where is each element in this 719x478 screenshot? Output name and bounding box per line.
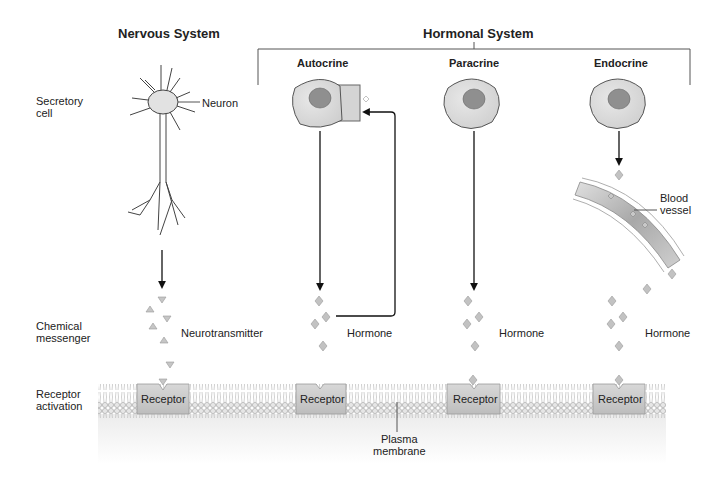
paracrine-cell bbox=[444, 79, 500, 129]
row-label-line: activation bbox=[36, 400, 82, 412]
nucleus-icon bbox=[608, 89, 630, 109]
header-endocrine: Endocrine bbox=[594, 57, 648, 69]
receptor-label: Receptor bbox=[598, 393, 643, 405]
row-label-line: cell bbox=[36, 107, 83, 119]
row-label-secretory-cell: Secretory cell bbox=[36, 95, 83, 119]
label-line: vessel bbox=[660, 204, 691, 216]
label-hormone-autocrine: Hormone bbox=[347, 327, 392, 339]
row-label-line: Chemical bbox=[36, 320, 90, 332]
label-plasma-membrane: Plasma membrane bbox=[373, 433, 426, 457]
label-line: Plasma bbox=[373, 433, 426, 445]
label-hormone-endocrine: Hormone bbox=[645, 327, 690, 339]
header-autocrine: Autocrine bbox=[297, 57, 348, 69]
neurotransmitter-molecules bbox=[146, 297, 174, 385]
autocrine-cell bbox=[292, 79, 369, 127]
row-label-line: Receptor bbox=[36, 388, 82, 400]
row-label-chemical-messenger: Chemical messenger bbox=[36, 320, 90, 344]
header-paracrine: Paracrine bbox=[449, 57, 499, 69]
label-blood-vessel: Blood vessel bbox=[660, 192, 691, 216]
neuron-icon bbox=[128, 65, 200, 235]
label-line: Blood bbox=[660, 192, 691, 204]
endocrine-cell bbox=[590, 79, 646, 129]
diagram-canvas bbox=[0, 0, 719, 478]
receptor-label: Receptor bbox=[141, 393, 186, 405]
nucleus-icon bbox=[309, 88, 331, 108]
header-nervous-system: Nervous System bbox=[118, 26, 220, 41]
row-label-receptor-activation: Receptor activation bbox=[36, 388, 82, 412]
arrows bbox=[162, 112, 619, 316]
row-label-line: Secretory bbox=[36, 95, 83, 107]
label-line: membrane bbox=[373, 445, 426, 457]
label-neuron: Neuron bbox=[202, 97, 238, 109]
receptor-label: Receptor bbox=[453, 393, 498, 405]
label-neurotransmitter: Neurotransmitter bbox=[181, 327, 263, 339]
nucleus-icon bbox=[463, 89, 485, 109]
row-label-line: messenger bbox=[36, 332, 90, 344]
label-hormone-paracrine: Hormone bbox=[499, 327, 544, 339]
receptor-label: Receptor bbox=[300, 393, 345, 405]
header-hormonal-system: Hormonal System bbox=[423, 26, 534, 41]
